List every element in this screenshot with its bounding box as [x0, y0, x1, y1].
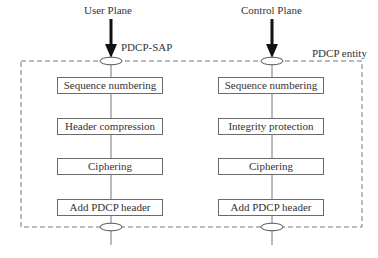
- sap-top-left-icon: [100, 57, 122, 65]
- control-plane-box-ciphering: Ciphering: [218, 158, 324, 175]
- user-plane-box-sequence-numbering: Sequence numbering: [57, 77, 163, 94]
- user-plane-title: User Plane: [84, 4, 132, 16]
- control-plane-box-add-pdcp-header: Add PDCP header: [218, 199, 324, 216]
- user-plane-box-add-pdcp-header: Add PDCP header: [57, 199, 163, 216]
- sap-top-right-icon: [261, 57, 283, 65]
- user-plane-box-header-compression: Header compression: [57, 118, 163, 135]
- sap-bottom-right-icon: [261, 223, 283, 231]
- control-plane-box-integrity-protection: Integrity protection: [218, 118, 324, 135]
- user-plane-arrow-icon: [105, 19, 117, 58]
- control-plane-arrow-icon: [266, 19, 278, 58]
- control-plane-title: Control Plane: [241, 4, 302, 16]
- pdcp-entity-label: PDCP entity: [312, 47, 367, 59]
- control-plane-box-sequence-numbering: Sequence numbering: [218, 77, 324, 94]
- user-plane-box-ciphering: Ciphering: [57, 158, 163, 175]
- sap-bottom-left-icon: [100, 223, 122, 231]
- pdcp-sap-label: PDCP-SAP: [121, 41, 172, 53]
